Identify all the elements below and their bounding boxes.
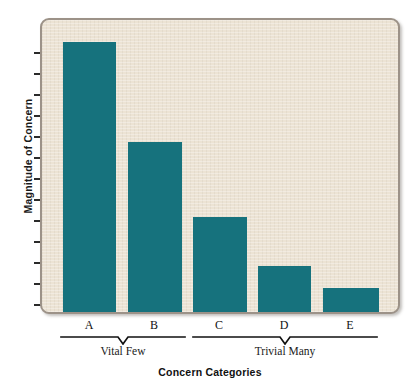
bar-a[interactable] [63, 42, 116, 312]
pareto-chart: Magnitude of Concern A B C D E Vital Few [0, 0, 420, 388]
y-axis-title: Magnitude of Concern [22, 66, 34, 246]
x-tick-label-e: E [323, 318, 377, 333]
group-label-vital-few: Vital Few [60, 345, 186, 357]
group-label-trivial-many: Trivial Many [192, 345, 378, 357]
bracket-vital-few [60, 336, 186, 345]
x-tick-label-a: A [63, 318, 115, 333]
plot-area [40, 18, 400, 314]
bar-e[interactable] [323, 288, 379, 312]
x-tick-label-b: B [128, 318, 180, 333]
bar-b[interactable] [128, 142, 182, 312]
bracket-trivial-many [192, 336, 378, 345]
x-tick-label-d: D [258, 318, 310, 333]
bar-d[interactable] [258, 266, 311, 312]
bar-c[interactable] [193, 217, 247, 312]
bars-layer [42, 20, 398, 312]
x-tick-label-c: C [193, 318, 245, 333]
x-axis-title: Concern Categories [0, 366, 420, 378]
